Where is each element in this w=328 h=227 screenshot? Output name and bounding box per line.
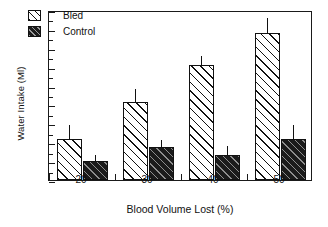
x-axis-tick-label: 20 [51, 175, 111, 185]
y-axis-tick [49, 69, 55, 70]
x-axis-tick [181, 174, 182, 180]
error-bar-control-20 [95, 155, 96, 162]
legend-item-control: Control [28, 25, 95, 38]
bar-chart-figure: Water Intake (Ml) 0123456789 Bled Contro… [0, 0, 328, 227]
bar-bled-50 [255, 33, 280, 180]
error-bar-control-40 [227, 146, 228, 155]
legend-swatch-control-icon [28, 26, 41, 37]
chart-legend: Bled Control [28, 9, 95, 41]
y-axis-minor-tick [49, 97, 53, 98]
bar-bled-40 [189, 65, 214, 180]
x-axis-tick [49, 174, 50, 180]
error-bar-bled-50 [267, 18, 268, 33]
y-axis-tick [49, 106, 55, 107]
bar-bled-30 [123, 102, 148, 180]
x-axis-tick [247, 174, 248, 180]
error-bar-control-30 [161, 140, 162, 147]
y-axis-tick [49, 125, 55, 126]
y-axis-tick [49, 163, 55, 164]
x-axis-tick [115, 174, 116, 180]
y-axis-title: Water Intake (Ml) [15, 29, 26, 179]
legend-item-bled: Bled [28, 9, 95, 22]
error-bar-bled-20 [69, 125, 70, 139]
legend-label-control: Control [63, 26, 95, 37]
legend-label-bled: Bled [63, 10, 83, 21]
error-bar-bled-30 [135, 89, 136, 101]
x-axis-tick-label: 40 [183, 175, 243, 185]
y-axis-tick [49, 144, 55, 145]
y-axis-minor-tick [49, 59, 53, 60]
error-bar-bled-40 [201, 56, 202, 65]
y-axis-minor-tick [49, 78, 53, 79]
y-axis-minor-tick [49, 135, 53, 136]
y-axis-minor-tick [49, 116, 53, 117]
y-axis-tick [49, 88, 55, 89]
x-axis-tick-label: 30 [117, 175, 177, 185]
x-axis-title: Blood Volume Lost (%) [48, 203, 312, 215]
y-axis-tick [49, 50, 55, 51]
error-bar-control-50 [293, 125, 294, 139]
y-axis-minor-tick [49, 154, 53, 155]
x-axis-tick-label: 50 [249, 175, 309, 185]
legend-swatch-bled-icon [28, 10, 41, 21]
